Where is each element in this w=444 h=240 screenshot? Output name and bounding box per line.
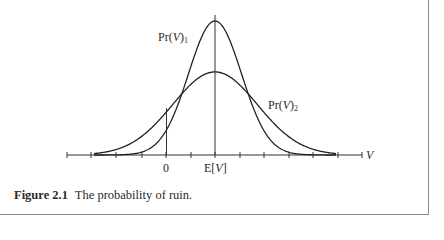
figure-number: Figure 2.1 — [14, 188, 68, 202]
curve1-label: Pr(V)1 — [158, 30, 188, 45]
tick-label-mean: E[V] — [204, 161, 227, 176]
curve2-label: Pr(V)2 — [268, 98, 298, 113]
caption-text: The probability of ruin. — [75, 188, 192, 202]
tick-label-zero: 0 — [163, 161, 169, 176]
figure-caption: Figure 2.1 The probability of ruin. — [14, 188, 192, 203]
x-axis-label: V — [366, 148, 373, 163]
